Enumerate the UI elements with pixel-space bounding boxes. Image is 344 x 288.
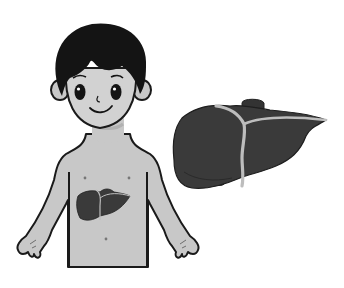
nipple-right <box>128 177 131 180</box>
boy-figure <box>17 23 198 267</box>
liver-enlarged <box>173 99 326 188</box>
eye-right <box>111 84 122 100</box>
eye-left <box>75 84 86 100</box>
nipple-left <box>84 177 87 180</box>
illustration-canvas: Boy with liver illustration <box>0 0 344 288</box>
illustration-svg <box>0 0 344 288</box>
navel <box>105 238 108 241</box>
